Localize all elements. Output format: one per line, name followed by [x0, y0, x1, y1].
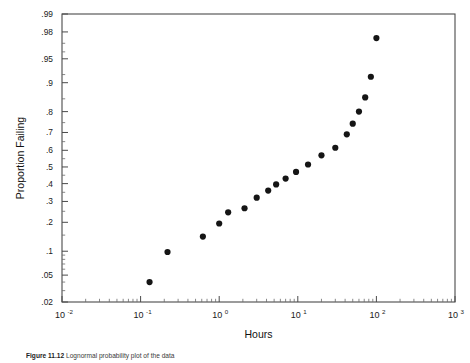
y-tick-label-11: .1: [46, 246, 53, 256]
svg-text:3: 3: [461, 308, 465, 315]
svg-text:-2: -2: [68, 308, 74, 315]
data-point: [318, 152, 324, 158]
svg-text:1: 1: [303, 308, 307, 315]
data-point: [362, 94, 368, 100]
svg-text:10: 10: [55, 310, 65, 320]
y-tick-label-10: .2: [46, 217, 53, 227]
x-axis-title: Hours: [244, 328, 272, 340]
y-tick-label-3: .9: [46, 78, 53, 88]
y-tick-label-2: .95: [41, 54, 53, 64]
y-tick-label-5: .7: [46, 127, 53, 137]
figure-container: 10-210-1100101102103 .99.98.95.9.8.7.6.5…: [0, 0, 470, 363]
data-point: [373, 35, 379, 41]
y-tick-label-12: .05: [41, 270, 53, 280]
svg-text:10: 10: [291, 310, 301, 320]
data-point: [265, 187, 271, 193]
svg-text:10: 10: [212, 310, 222, 320]
svg-text:10: 10: [448, 310, 458, 320]
data-point: [368, 74, 374, 80]
y-tick-label-1: .98: [41, 27, 53, 37]
y-tick-label-13: .02: [41, 297, 53, 307]
y-tick-label-9: .3: [46, 196, 53, 206]
y-tick-label-8: .4: [46, 179, 53, 189]
data-point: [164, 249, 170, 255]
svg-text:0: 0: [225, 308, 229, 315]
y-axis-title: Proportion Failing: [14, 117, 26, 199]
data-point: [146, 279, 152, 285]
data-point: [216, 220, 222, 226]
data-point: [225, 209, 231, 215]
svg-text:2: 2: [382, 308, 386, 315]
probability-plot: 10-210-1100101102103 .99.98.95.9.8.7.6.5…: [0, 0, 470, 363]
figure-caption-label: Figure 11.12: [26, 352, 64, 359]
data-point: [241, 205, 247, 211]
svg-text:10: 10: [369, 310, 379, 320]
data-point: [356, 109, 362, 115]
data-point: [283, 175, 289, 181]
data-point: [350, 121, 356, 127]
y-tick-label-0: .99: [41, 9, 53, 19]
data-point: [273, 181, 279, 187]
data-point: [332, 145, 338, 151]
data-point: [305, 161, 311, 167]
data-point: [200, 233, 206, 239]
y-tick-label-4: .8: [46, 107, 53, 117]
data-point: [254, 195, 260, 201]
svg-text:10: 10: [134, 310, 144, 320]
svg-text:-1: -1: [146, 308, 152, 315]
data-point: [293, 169, 299, 175]
data-point: [344, 131, 350, 137]
y-tick-label-6: .6: [46, 145, 53, 155]
figure-caption-text: Lognormal probability plot of the data: [66, 352, 175, 359]
figure-caption: Figure 11.12 Lognormal probability plot …: [26, 352, 456, 360]
y-tick-label-7: .5: [46, 162, 53, 172]
